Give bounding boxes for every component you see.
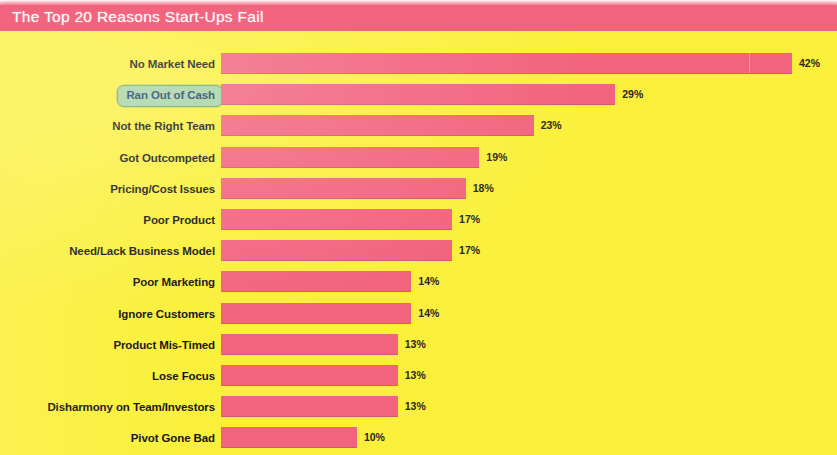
bar-label: Not the Right Team (112, 115, 222, 137)
bar-fill (221, 147, 479, 168)
bar-value-label: 13% (398, 396, 426, 416)
bar-label: Ignore Customers (118, 303, 222, 325)
bar-label: Disharmony on Team/Investors (47, 396, 222, 418)
bar-row: Not the Right Team23% (0, 115, 837, 137)
bar-fill (221, 271, 411, 292)
bar-track (221, 240, 452, 262)
bar-row: Ran Out of Cash29% (0, 84, 837, 106)
bar-track (221, 178, 466, 200)
bar-track (221, 147, 479, 169)
bar-track (221, 303, 411, 325)
bar-row: Pricing/Cost Issues18% (0, 178, 837, 200)
bar-fill (221, 334, 398, 355)
bar-fill (221, 365, 398, 386)
bar-row: Lose Focus13% (0, 365, 837, 387)
bar-track (221, 115, 534, 137)
bar-track (221, 271, 411, 293)
bar-label: Pivot Gone Bad (131, 427, 222, 449)
bar-value-label: 13% (398, 365, 426, 385)
bar-fill (221, 84, 615, 105)
page-title: The Top 20 Reasons Start-Ups Fail (12, 8, 264, 26)
title-banner: The Top 20 Reasons Start-Ups Fail (0, 5, 837, 31)
bar-value-label: 18% (466, 178, 494, 198)
bar-track (221, 84, 615, 106)
bar-fill (221, 178, 466, 199)
bar-label-highlighted[interactable]: Ran Out of Cash (117, 85, 223, 107)
bar-row: Poor Product17% (0, 209, 837, 231)
bar-track (221, 427, 357, 449)
bar-fill (221, 115, 534, 136)
bar-fill (221, 396, 398, 417)
bar-row: Poor Marketing14% (0, 271, 837, 293)
bar-track (221, 334, 398, 356)
bar-value-label: 17% (452, 240, 480, 260)
bar-label: Poor Product (143, 209, 222, 231)
bar-label: Product Mis-Timed (113, 334, 222, 356)
bar-label: Pricing/Cost Issues (110, 178, 222, 200)
bar-track (221, 53, 792, 75)
bar-value-label: 19% (479, 147, 507, 167)
bar-row: Pivot Gone Bad10% (0, 427, 837, 449)
bar-row: Ignore Customers14% (0, 303, 837, 325)
bar-row: Product Mis-Timed13% (0, 334, 837, 356)
bar-fill (221, 53, 792, 74)
bar-fill (221, 240, 452, 261)
bar-label: Lose Focus (152, 365, 222, 387)
bar-track (221, 365, 398, 387)
bar-scan-seam (749, 53, 750, 73)
bar-label: Poor Marketing (133, 271, 222, 293)
bar-row: No Market Need42% (0, 53, 837, 75)
chart-page: The Top 20 Reasons Start-Ups Fail No Mar… (0, 0, 837, 455)
bar-fill (221, 427, 357, 448)
bar-track (221, 209, 452, 231)
bar-label: Need/Lack Business Model (69, 240, 222, 262)
bar-value-label: 14% (411, 271, 439, 291)
bar-track (221, 396, 398, 418)
bar-value-label: 23% (534, 115, 562, 135)
bar-label: No Market Need (129, 53, 222, 75)
bar-value-label: 17% (452, 209, 480, 229)
bar-value-label: 10% (357, 427, 385, 447)
chart-plot-area: No Market Need42%Ran Out of Cash29%Not t… (0, 31, 837, 455)
bar-value-label: 13% (398, 334, 426, 354)
bar-fill (221, 303, 411, 324)
bar-row: Got Outcompeted19% (0, 147, 837, 169)
bar-value-label: 14% (411, 303, 439, 323)
bar-fill (221, 209, 452, 230)
bar-value-label: 42% (792, 53, 820, 73)
bar-row: Need/Lack Business Model17% (0, 240, 837, 262)
bar-row: Disharmony on Team/Investors13% (0, 396, 837, 418)
bar-label: Got Outcompeted (119, 147, 222, 169)
bar-value-label: 29% (615, 84, 643, 104)
